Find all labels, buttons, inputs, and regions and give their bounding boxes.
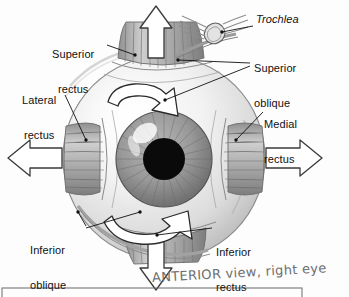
iris	[116, 111, 212, 207]
label-medial-rectus-line2: rectus	[264, 154, 297, 166]
label-lateral-rectus: Lateral rectus	[22, 72, 56, 164]
label-medial-rectus: Medial rectus	[264, 96, 297, 188]
label-inferior-rectus-line1: Inferior	[216, 247, 251, 259]
figure-canvas: Superior rectus Trochlea Superior obliqu…	[0, 0, 349, 297]
label-inferior-oblique-line1: Inferior	[30, 245, 66, 257]
label-inferior-oblique-line2: oblique	[30, 280, 66, 292]
label-inferior-rectus-line2: rectus	[216, 282, 251, 294]
label-superior-rectus-line1: Superior	[52, 49, 94, 61]
label-superior-rectus-line2: rectus	[52, 84, 94, 96]
label-inferior-rectus: Inferior rectus	[216, 224, 251, 297]
label-superior-oblique-line1: Superior	[254, 63, 296, 75]
label-lateral-rectus-line1: Lateral	[22, 95, 56, 107]
pupil	[143, 138, 185, 180]
label-lateral-rectus-line2: rectus	[22, 130, 56, 142]
label-trochlea: Trochlea	[256, 14, 299, 26]
label-superior-rectus: Superior rectus	[52, 26, 94, 118]
label-inferior-oblique: Inferior oblique	[30, 222, 66, 297]
label-medial-rectus-line1: Medial	[264, 119, 297, 131]
